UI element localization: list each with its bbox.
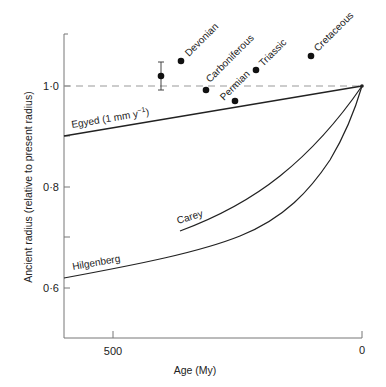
point-unlabelled bbox=[158, 73, 165, 80]
point-cretaceous bbox=[308, 53, 315, 60]
label-devonian: Devonian bbox=[183, 21, 221, 59]
point-triassic bbox=[253, 67, 260, 74]
x-axis-title: Age (My) bbox=[174, 364, 217, 376]
egyed-label: Egyed (1 mm y−1) bbox=[70, 105, 149, 130]
radius-vs-age-chart: 1·0 0·8 0·6 500 0 Age (My) Ancient radiu… bbox=[0, 0, 386, 387]
y-tick-label-1-0: 1·0 bbox=[43, 80, 59, 92]
label-permian: Permian bbox=[218, 68, 252, 102]
y-tick-label-0-8: 0·8 bbox=[43, 181, 59, 193]
point-devonian bbox=[178, 58, 185, 65]
x-tick-label-0: 0 bbox=[359, 344, 365, 356]
point-permian bbox=[232, 98, 239, 105]
carey-curve bbox=[180, 86, 362, 231]
point-carboniferous bbox=[203, 87, 210, 94]
y-axis-title: Ancient radius (relative to present radi… bbox=[22, 91, 34, 282]
x-tick-label-500: 500 bbox=[104, 345, 122, 357]
y-tick-label-0-6: 0·6 bbox=[43, 282, 59, 294]
label-triassic: Triassic bbox=[257, 37, 289, 69]
x-ticks bbox=[113, 331, 362, 338]
y-ticks bbox=[64, 86, 70, 288]
label-cretaceous: Cretaceous bbox=[312, 9, 356, 53]
origin-point bbox=[360, 84, 364, 88]
egyed-curve bbox=[64, 86, 362, 136]
